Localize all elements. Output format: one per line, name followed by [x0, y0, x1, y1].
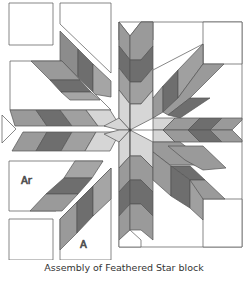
corner-square-bottom-left	[9, 219, 53, 260]
label-ar: Ar	[21, 175, 33, 186]
vertical-spine-top	[119, 22, 153, 130]
corner-square-top-right	[203, 22, 242, 64]
label-a: A	[80, 239, 87, 250]
left-lower-strip	[12, 132, 120, 151]
assembled-right-half	[104, 22, 242, 247]
corner-square-top-left	[9, 3, 53, 45]
horizontal-arm-right	[153, 118, 242, 142]
vertical-spine-bottom	[119, 130, 153, 247]
feathered-star-diagram: Ar A	[0, 0, 248, 260]
figure-caption: Assembly of Feathered Star block	[0, 262, 248, 273]
corner-square-bottom-right	[203, 199, 242, 247]
